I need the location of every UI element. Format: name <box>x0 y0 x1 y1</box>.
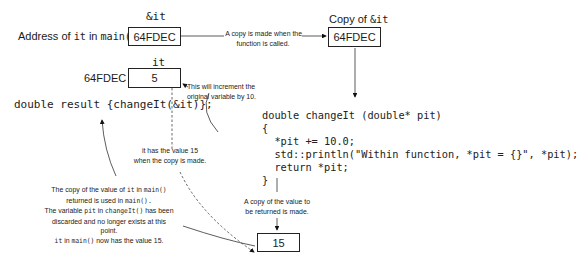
code-line-println: std::println("Within function, *pit = {}… <box>262 148 578 161</box>
note-result-used-line6: it in main() now has the value 15. <box>40 236 178 247</box>
t1b: it <box>127 186 135 194</box>
code-line-close-brace: } <box>262 174 578 187</box>
address-label: Address of it in main() <box>18 30 137 42</box>
note-result-used: The copy of the value of it in main() re… <box>40 185 178 246</box>
note-return-copy-line2: be returned is made. <box>240 207 314 217</box>
address-label-mid: in <box>86 30 101 42</box>
code-line-return: return *pit; <box>262 161 578 174</box>
function-code-block: double changeIt (double* pit) { *pit += … <box>262 109 578 187</box>
note-return-copy: A copy of the value to be returned is ma… <box>240 197 314 216</box>
note-result-used-line4: discarded and no longer exists at this <box>40 217 178 227</box>
copy-header-code: &it <box>370 14 388 25</box>
note-return-copy-line1: A copy of the value to <box>240 197 314 207</box>
t2a: returned is used in <box>66 196 125 205</box>
code-line-signature: double changeIt (double* pit) <box>262 109 578 122</box>
note-result-used-line5: point. <box>40 226 178 236</box>
amp-it-value-box: 64FDEC <box>128 27 181 46</box>
copy-value-box: 64FDEC <box>328 27 381 47</box>
t3d: changeIt() <box>105 207 143 215</box>
copy-header: Copy of &it <box>329 13 388 25</box>
amp-it-header: &it <box>146 10 166 23</box>
note-result-used-line1: The copy of the value of it in main() <box>40 185 178 196</box>
t3a: The variable <box>44 206 84 215</box>
note-copy-made-line1: A copy is made when the <box>225 29 300 39</box>
t3b: pit <box>84 207 95 215</box>
line-from-return-copy <box>183 226 255 246</box>
address-label-it: it <box>74 31 86 42</box>
t1a: The copy of the value of <box>51 185 127 194</box>
code-line-open-brace: { <box>262 122 578 135</box>
result-statement: double result {changeIt(&it)}; <box>14 98 213 111</box>
note-result-used-line2: returned is used in main(). <box>40 196 178 207</box>
note-has-value-line2: when the copy is made. <box>133 156 207 166</box>
note-has-value: it has the value 15 when the copy is mad… <box>133 146 207 165</box>
t3c: in <box>96 206 105 215</box>
t6b: in <box>62 236 71 245</box>
note-copy-made-line2: function is called. <box>225 39 300 49</box>
arrow-to-result-statement <box>102 120 116 176</box>
address-label-prefix: Address of <box>18 30 74 42</box>
t6d: now has the value 15. <box>94 236 163 245</box>
note-increment-line1: This will increment the <box>187 82 253 92</box>
note-copy-made: A copy is made when the function is call… <box>225 29 300 48</box>
t1c: in <box>135 185 144 194</box>
t6a: it <box>55 237 63 245</box>
note-has-value-line1: it has the value 15 <box>133 146 207 156</box>
copy-header-prefix: Copy of <box>329 13 370 25</box>
it-value-box: 5 <box>128 68 181 88</box>
code-line-increment: *pit += 10.0; <box>262 135 578 148</box>
t3e: has been <box>143 206 173 215</box>
it-address-label: 64FDEC <box>84 72 126 84</box>
t6c: main() <box>71 237 94 245</box>
t2b: main(). <box>125 197 152 205</box>
return-copy-value-box: 15 <box>257 233 300 252</box>
note-result-used-line3: The variable pit in changeIt() has been <box>40 206 178 217</box>
t1d: main() <box>144 186 167 194</box>
